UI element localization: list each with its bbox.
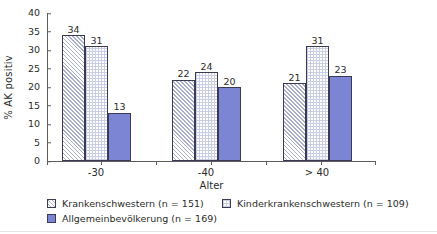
legend-item-allgemeinbevoelkerung[interactable]: Allgemeinbevölkerung (n = 169) xyxy=(47,214,222,224)
bar-value-label: 31 xyxy=(311,36,323,46)
x-tick-3 xyxy=(211,161,212,165)
bar-chart-figure: % AK positiv 40 35 30 25 20 15 10 5 0 34… xyxy=(0,0,437,234)
y-tick-20: 20 xyxy=(28,82,47,92)
x-category-label-minus30: -30 xyxy=(88,167,104,178)
plot-area: 40 35 30 25 20 15 10 5 0 34 31 13 22 2 xyxy=(47,13,375,161)
legend-item-kinderkrankenschwestern[interactable]: Kinderkrankenschwestern (n = 109) xyxy=(222,199,409,209)
x-category-label-minus40: -40 xyxy=(198,167,214,178)
bar-group-over40: 21 31 23 xyxy=(283,13,352,161)
legend-item-krankenschwestern[interactable]: Krankenschwestern (n = 151) xyxy=(47,199,222,209)
bar-group-minus30: 34 31 13 xyxy=(62,13,131,161)
y-tick-15: 15 xyxy=(28,101,47,111)
x-tick-1 xyxy=(101,161,102,165)
y-tick-40: 40 xyxy=(28,8,47,18)
bar-value-label: 22 xyxy=(177,69,189,79)
x-tick-end xyxy=(375,161,376,165)
y-tick-25: 25 xyxy=(28,64,47,74)
bar-allgemeinbevoelkerung-minus30[interactable]: 13 xyxy=(108,113,131,161)
legend-row-2: Allgemeinbevölkerung (n = 169) xyxy=(47,211,427,226)
y-tick-35: 35 xyxy=(28,27,47,37)
y-tick-10: 10 xyxy=(28,119,47,129)
bar-value-label: 21 xyxy=(288,73,300,83)
bar-value-label: 34 xyxy=(67,25,79,35)
y-axis-title-text: % AK positiv xyxy=(3,55,14,120)
x-axis-title: Alter xyxy=(47,180,376,191)
bar-krankenschwestern-minus30[interactable]: 34 xyxy=(62,35,85,161)
legend-swatch-hatch-icon xyxy=(47,199,56,208)
y-tick-0: 0 xyxy=(34,156,47,166)
y-tick-30: 30 xyxy=(28,45,47,55)
bar-kinderkrankenschwestern-minus40[interactable]: 24 xyxy=(195,72,218,161)
bar-krankenschwestern-over40[interactable]: 21 xyxy=(283,83,306,161)
x-category-label-over40: > 40 xyxy=(305,167,329,178)
legend-label: Krankenschwestern (n = 151) xyxy=(62,199,204,209)
chart-legend: Krankenschwestern (n = 151) Kinderkranke… xyxy=(47,196,427,226)
bar-kinderkrankenschwestern-over40[interactable]: 31 xyxy=(306,46,329,161)
bar-kinderkrankenschwestern-minus30[interactable]: 31 xyxy=(85,46,108,161)
legend-row-1: Krankenschwestern (n = 151) Kinderkranke… xyxy=(47,196,427,211)
bar-value-label: 24 xyxy=(200,62,212,72)
legend-swatch-dots-icon xyxy=(222,199,231,208)
legend-swatch-solid-icon xyxy=(47,214,56,223)
bar-allgemeinbevoelkerung-minus40[interactable]: 20 xyxy=(218,87,241,161)
bar-group-minus40: 22 24 20 xyxy=(172,13,241,161)
bar-value-label: 23 xyxy=(334,65,346,75)
bar-krankenschwestern-minus40[interactable]: 22 xyxy=(172,80,195,161)
x-tick-2 xyxy=(156,161,157,165)
bar-value-label: 13 xyxy=(113,102,125,112)
x-tick-start xyxy=(47,161,48,165)
bar-allgemeinbevoelkerung-over40[interactable]: 23 xyxy=(329,76,352,161)
y-tick-5: 5 xyxy=(34,138,47,148)
legend-label: Allgemeinbevölkerung (n = 169) xyxy=(62,214,217,224)
y-axis-title: % AK positiv xyxy=(1,13,15,161)
bar-value-label: 31 xyxy=(90,36,102,46)
x-tick-4 xyxy=(266,161,267,165)
bar-value-label: 20 xyxy=(223,77,235,87)
legend-label: Kinderkrankenschwestern (n = 109) xyxy=(237,199,409,209)
scan-artifact-line xyxy=(0,231,437,232)
x-tick-5 xyxy=(321,161,322,165)
